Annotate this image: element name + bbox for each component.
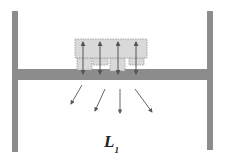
arrow-icon <box>95 89 105 111</box>
arrow-icon <box>71 85 82 104</box>
diagram-label: L1 <box>104 132 119 153</box>
posts <box>12 11 213 152</box>
sub-block <box>77 58 92 70</box>
label-subscript: 1 <box>114 145 119 155</box>
left-post <box>12 11 18 152</box>
radiating-arrows <box>71 85 152 113</box>
arrow-icon <box>135 89 152 112</box>
right-post <box>207 11 213 150</box>
label-main: L <box>104 132 114 151</box>
